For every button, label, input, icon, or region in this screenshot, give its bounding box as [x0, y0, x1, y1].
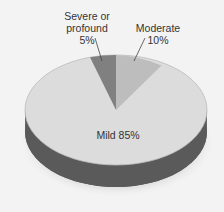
label-severe-line1: Severe or — [52, 10, 122, 22]
label-moderate-line2: 10% — [128, 34, 188, 46]
label-severe: Severe or profound 5% — [52, 10, 122, 46]
label-moderate: Moderate 10% — [128, 22, 188, 46]
label-severe-line3: 5% — [52, 34, 122, 46]
label-mild: Mild 85% — [88, 129, 148, 141]
label-severe-line2: profound — [52, 22, 122, 34]
label-moderate-line1: Moderate — [128, 22, 188, 34]
